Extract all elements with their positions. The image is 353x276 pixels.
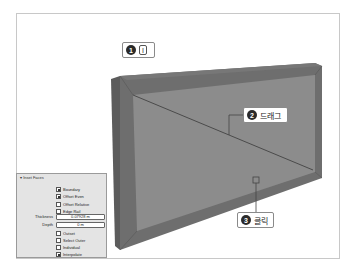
- checkbox-boundary[interactable]: Boundary: [17, 187, 106, 193]
- checkbox-outset[interactable]: Outset: [17, 231, 106, 237]
- depth-field[interactable]: 0 m: [56, 222, 105, 228]
- checkbox-icon[interactable]: [56, 252, 61, 257]
- checkbox-interpolate[interactable]: Interpolate: [17, 252, 106, 258]
- checkbox-icon[interactable]: [56, 187, 61, 192]
- checkbox-label: Select Outer: [63, 238, 85, 243]
- checkbox-label: Outset: [63, 231, 75, 236]
- checkbox-icon[interactable]: [56, 194, 61, 199]
- checkbox-offset-relative[interactable]: Offset Relative: [17, 202, 106, 208]
- checkbox-label: Offset Relative: [63, 202, 89, 207]
- thickness-label: Thickness: [35, 214, 53, 220]
- checkbox-icon[interactable]: [56, 231, 61, 236]
- collapse-arrow-icon[interactable]: ▾: [20, 175, 22, 180]
- checkbox-label: Individual: [63, 245, 80, 250]
- callout-text: 클릭: [254, 215, 268, 226]
- callout-3: 3 클릭: [237, 212, 274, 228]
- checkbox-label: Offset Even: [63, 194, 84, 199]
- step-number-badge: 2: [247, 110, 257, 120]
- depth-row: Depth 0 m: [17, 222, 106, 228]
- panel-title: Inset Faces: [23, 175, 44, 180]
- checkbox-icon[interactable]: [56, 202, 61, 207]
- callout-2: 2 드래그: [243, 107, 288, 123]
- step-number-badge: 1: [126, 45, 136, 55]
- checkbox-select-outer[interactable]: Select Outer: [17, 238, 106, 244]
- panel-header[interactable]: ▾ Inset Faces: [20, 175, 44, 180]
- callout-1: 1 I: [122, 42, 155, 58]
- thickness-row: Thickness 0.07928 m: [17, 214, 106, 220]
- callout-text: 드래그: [260, 110, 281, 121]
- thickness-field[interactable]: 0.07928 m: [56, 214, 105, 220]
- checkbox-label: Interpolate: [63, 252, 82, 257]
- inset-faces-panel: ▾ Inset Faces Boundary Offset Even Offse…: [16, 173, 107, 258]
- checkbox-icon[interactable]: [56, 245, 61, 250]
- checkbox-offset-even[interactable]: Offset Even: [17, 194, 106, 200]
- step-number-badge: 3: [241, 215, 251, 225]
- mesh-side-face: [111, 76, 120, 250]
- keyboard-key-icon: I: [139, 45, 147, 55]
- checkbox-icon[interactable]: [56, 238, 61, 243]
- depth-label: Depth: [42, 222, 53, 228]
- checkbox-individual[interactable]: Individual: [17, 245, 106, 251]
- checkbox-label: Boundary: [63, 187, 80, 192]
